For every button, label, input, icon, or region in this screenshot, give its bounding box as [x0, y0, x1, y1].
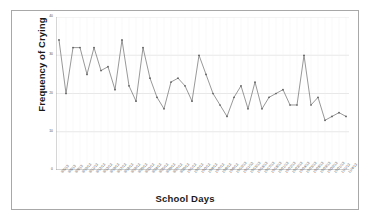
data-point [156, 96, 158, 98]
data-point [198, 54, 200, 56]
data-point [177, 77, 179, 79]
data-point [282, 89, 284, 91]
data-point [212, 93, 214, 95]
data-point [86, 74, 88, 76]
line-chart-svg [56, 17, 349, 170]
data-point [191, 100, 193, 102]
data-point [338, 112, 340, 114]
data-point [128, 85, 130, 87]
data-point [254, 81, 256, 83]
data-point [268, 96, 270, 98]
data-point [72, 47, 74, 49]
data-point [79, 47, 81, 49]
data-point [114, 89, 116, 91]
data-point [331, 116, 333, 118]
data-point [135, 100, 137, 102]
data-point [324, 119, 326, 121]
data-point [226, 116, 228, 118]
data-point [149, 77, 151, 79]
data-point [65, 93, 67, 95]
y-axis-tick-labels: 010203040 [12, 11, 56, 176]
data-point [233, 96, 235, 98]
plot-area [56, 17, 349, 170]
y-tick-label: 0 [51, 168, 53, 171]
data-point [345, 116, 347, 118]
data-point [289, 104, 291, 106]
data-point [303, 54, 305, 56]
y-tick-label: 10 [49, 130, 53, 133]
data-point [170, 81, 172, 83]
data-point [142, 47, 144, 49]
chart-figure-frame: Frequency of Crying 010203040 9/5/139/6/… [11, 10, 359, 210]
data-point [58, 39, 60, 41]
y-axis-title: Frequency of Crying [36, 0, 47, 130]
data-point [247, 108, 249, 110]
data-point [296, 104, 298, 106]
data-point [261, 108, 263, 110]
data-point [205, 74, 207, 76]
data-point [219, 104, 221, 106]
x-axis-title: School Days [12, 193, 358, 204]
y-tick-label: 40 [49, 15, 53, 18]
x-tick-label: 11/4/13 [348, 163, 359, 174]
data-point [275, 93, 277, 95]
data-point [240, 85, 242, 87]
y-tick-label: 30 [49, 54, 53, 57]
data-point [121, 39, 123, 41]
data-point [163, 108, 165, 110]
y-tick-label: 20 [49, 92, 53, 95]
data-point [310, 104, 312, 106]
data-point [107, 66, 109, 68]
data-point [93, 47, 95, 49]
data-point [184, 85, 186, 87]
data-point [100, 70, 102, 72]
data-point [317, 96, 319, 98]
chart-screenshot: Frequency of Crying 010203040 9/5/139/6/… [0, 0, 370, 221]
